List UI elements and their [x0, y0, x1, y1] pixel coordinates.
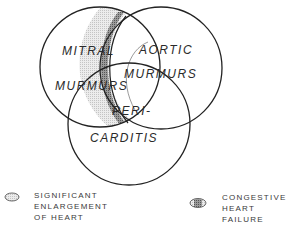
failure-legend-icon — [190, 199, 206, 208]
enlargement-legend-icon — [5, 193, 19, 201]
aortic-label-1: AORTIC — [139, 43, 193, 57]
pericarditis-label-1: PERI- — [112, 104, 152, 118]
mitral-label-1: MITRAL — [62, 44, 115, 58]
failure-legend-text: CONGESTIVE HEART FAILURE — [222, 192, 286, 225]
aortic-label-2: MURMURS — [124, 67, 197, 81]
enlargement-legend-text: SIGNIFICANT ENLARGEMENT OF HEART — [34, 190, 108, 223]
mitral-label-2: MURMURS — [55, 79, 128, 93]
pericarditis-label-2: CARDITIS — [90, 131, 158, 145]
